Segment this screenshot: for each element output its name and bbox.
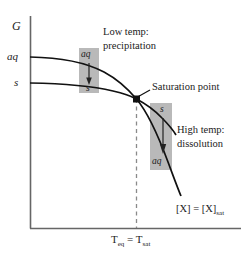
high-temp-annotation-line-1: High temp: [177,124,225,136]
y-tick-label-aqueous: aq [7,50,18,63]
x-axis-tick-label: Teq = Tsat [111,233,150,248]
saturation-concentration-annotation: [X] = [X]sat [176,203,224,217]
x-axis-tick-subscript-2: sat [143,240,151,248]
saturation-concentration-subscript: sat [216,209,224,217]
saturation-point-annotation: Saturation point [152,81,219,93]
free-energy-vs-temperature-figure: G aq s Low temp: precipitation aq s Satu… [0,0,249,256]
high-temp-box-top-label: s [160,104,164,115]
saturation-concentration-main: [X] = [X] [176,203,216,214]
y-tick-label-solid: s [14,76,18,89]
y-axis-label: G [12,20,21,34]
high-temp-box-bottom-label: aq [152,156,162,167]
x-axis-tick-symbol-2: T [136,233,143,245]
low-temp-annotation-line-2: precipitation [103,40,156,52]
x-axis-tick-equals: = [124,233,136,245]
saturation-point-leader-line [138,90,151,97]
low-temp-box-bottom-label: s [86,83,90,94]
low-temp-annotation-line-1: Low temp: [103,26,149,38]
low-temp-box-top-label: aq [81,49,91,60]
high-temp-annotation-line-2: dissolution [177,138,223,150]
x-axis-tick-symbol-1: T [111,233,118,245]
